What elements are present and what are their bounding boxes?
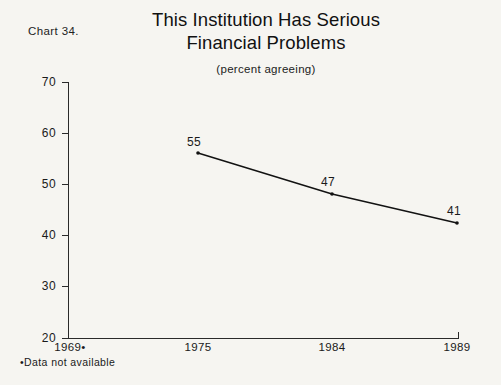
x-axis-tick-label-1989: 1989 — [431, 341, 483, 353]
data-point-1975 — [196, 151, 200, 155]
footnote-data-not-available: •Data not available — [20, 356, 115, 368]
y-axis-tick-label-40: 40 — [22, 228, 56, 242]
data-point-1984 — [330, 192, 334, 196]
x-axis-tick-label-1975: 1975 — [172, 341, 224, 353]
plot-area — [0, 0, 501, 385]
data-label-1989: 41 — [447, 204, 461, 218]
data-point-1989 — [455, 221, 459, 225]
chart-figure: Chart 34. This Institution Has Serious F… — [0, 0, 501, 385]
x-axis-tick-label-1984: 1984 — [306, 341, 358, 353]
y-axis-tick-label-60: 60 — [22, 126, 56, 140]
y-axis-tick-label-70: 70 — [22, 75, 56, 89]
y-axis-tick-label-30: 30 — [22, 279, 56, 293]
x-axis-tick-label-1969: 1969• — [44, 341, 96, 353]
y-axis-tick-label-50: 50 — [22, 177, 56, 191]
data-label-1975: 55 — [187, 135, 201, 149]
data-label-1984: 47 — [321, 175, 335, 189]
